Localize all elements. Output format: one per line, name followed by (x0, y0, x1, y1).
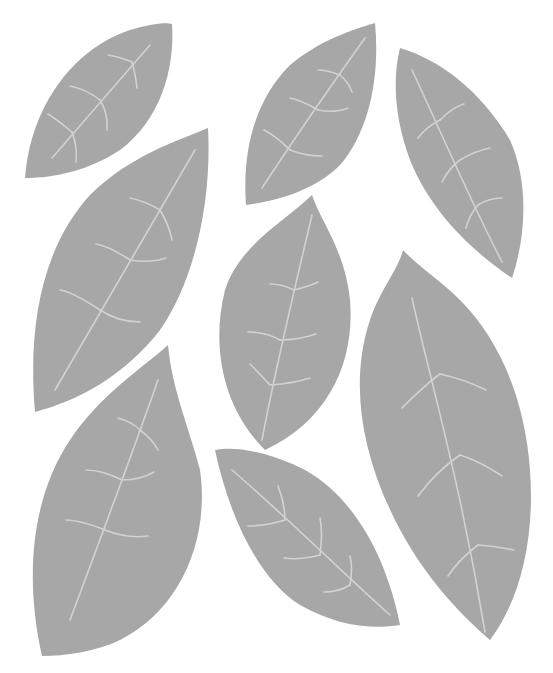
leaf-bottom-center (215, 449, 400, 627)
leaf-top-center (245, 23, 376, 205)
leaf-top-right (396, 48, 524, 278)
leaf-blade (396, 48, 524, 278)
leaf-cutouts-canvas (0, 0, 553, 673)
leaf-blade (219, 195, 350, 450)
leaf-center (219, 195, 350, 450)
